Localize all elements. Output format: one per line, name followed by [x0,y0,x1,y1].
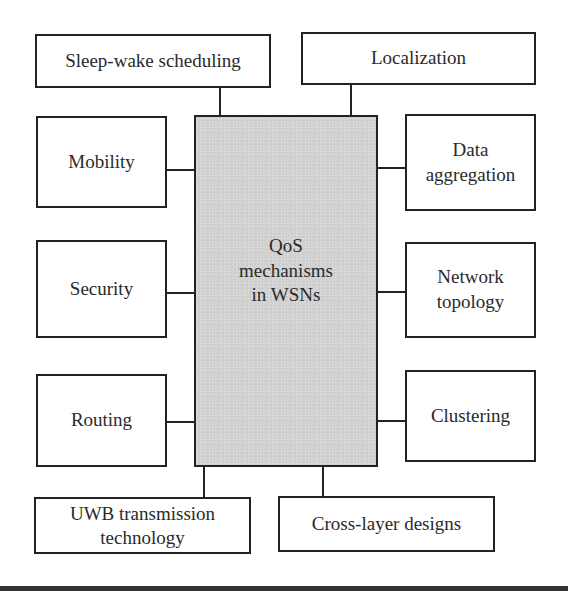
connector-uwb [203,465,205,498]
connector-localization [350,83,352,116]
node-uwb-transmission-technology: UWB transmission technology [34,497,251,554]
node-mobility: Mobility [36,116,167,208]
connector-cross-layer [322,465,324,497]
node-label: Cross-layer designs [312,512,461,537]
node-label: Routing [71,408,132,433]
connector-data-aggregation [376,167,406,169]
connector-routing [165,421,195,423]
node-data-aggregation: Data aggregation [405,114,536,211]
bottom-rule-divider [0,586,568,591]
node-security: Security [36,240,167,338]
node-label: Sleep-wake scheduling [65,49,241,74]
node-label: Security [70,277,133,302]
center-node-qos-mechanisms: QoS mechanisms in WSNs [194,115,378,467]
node-label: Mobility [68,150,135,175]
node-label: Clustering [431,404,510,429]
node-label: Localization [371,46,466,71]
node-label: Network topology [437,265,505,314]
node-localization: Localization [301,32,536,85]
node-routing: Routing [36,374,167,467]
node-label: Data aggregation [426,138,516,187]
node-clustering: Clustering [405,370,536,462]
center-label: QoS mechanisms in WSNs [239,234,333,308]
node-cross-layer-designs: Cross-layer designs [278,496,495,552]
connector-sleep-wake [219,86,221,116]
connector-mobility [165,169,195,171]
connector-security [165,292,195,294]
node-label: UWB transmission technology [70,502,215,550]
connector-network-topology [376,291,406,293]
connector-clustering [376,420,406,422]
node-sleep-wake-scheduling: Sleep-wake scheduling [35,34,271,88]
node-network-topology: Network topology [405,242,536,338]
